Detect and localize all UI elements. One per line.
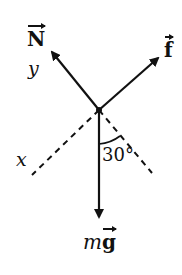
y-axis-label: y <box>28 59 39 78</box>
friction-force-label: f <box>164 40 173 60</box>
x-axis-label: x <box>16 150 27 169</box>
friction-force-arrow <box>99 58 158 110</box>
normal-force-symbol: N <box>27 29 45 49</box>
angle-arc <box>99 136 120 144</box>
angle-value: 30° <box>102 144 134 165</box>
y-axis-symbol: y <box>28 57 39 79</box>
gravity-symbol: g <box>102 232 116 252</box>
x-axis-dashed-line <box>32 110 99 175</box>
normal-force-label: N <box>27 29 45 49</box>
origin-point <box>96 107 102 113</box>
normal-force-arrow <box>52 52 99 110</box>
weight-force-label: mg <box>83 232 116 252</box>
friction-force-symbol: f <box>164 40 173 60</box>
mass-symbol: m <box>83 230 102 254</box>
x-axis-symbol: x <box>16 148 27 170</box>
angle-label: 30° <box>102 146 134 164</box>
